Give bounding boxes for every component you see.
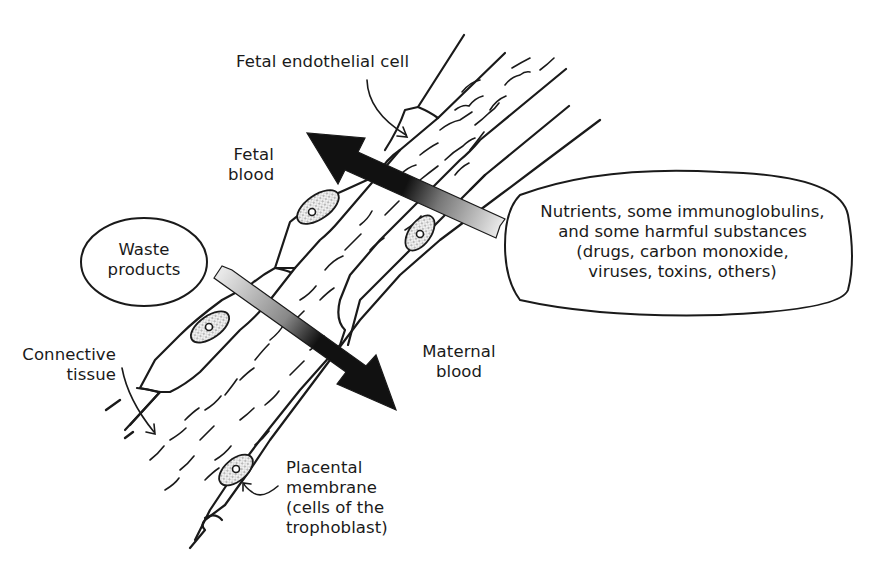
placental-line1: Placental — [286, 458, 388, 478]
nutrients-line2: and some harmful substances — [515, 222, 850, 242]
connective-tissue-label: Connective tissue — [14, 345, 116, 385]
connective-line2: tissue — [14, 365, 116, 385]
nutrients-label: Nutrients, some immunoglobulins, and som… — [515, 202, 850, 282]
fetal-blood-label: Fetal blood — [228, 145, 274, 185]
maternal-line2: blood — [418, 362, 500, 382]
nutrients-line3: (drugs, carbon monoxide, — [515, 242, 850, 262]
fetal-endothelial-cell-label: Fetal endothelial cell — [236, 52, 409, 72]
placental-line4: trophoblast) — [286, 518, 388, 538]
placental-pointer-icon — [243, 483, 278, 495]
waste-products-label: Waste products — [100, 240, 188, 280]
placental-line2: membrane — [286, 478, 388, 498]
placenta-diagram — [0, 0, 874, 577]
nutrients-line4: viruses, toxins, others) — [515, 262, 850, 282]
maternal-line1: Maternal — [418, 342, 500, 362]
placental-line3: (cells of the — [286, 498, 388, 518]
placental-membrane-label: Placental membrane (cells of the trophob… — [286, 458, 388, 538]
waste-line1: Waste — [100, 240, 188, 260]
endothelial-pointer-icon — [367, 80, 407, 137]
connective-line1: Connective — [14, 345, 116, 365]
fetal-blood-line1: Fetal — [228, 145, 274, 165]
fetal-blood-line2: blood — [228, 165, 274, 185]
maternal-blood-label: Maternal blood — [418, 342, 500, 382]
arrow-to-maternal-icon — [214, 266, 396, 410]
nutrients-line1: Nutrients, some immunoglobulins, — [515, 202, 850, 222]
connective-pointer-icon — [122, 368, 155, 434]
waste-line2: products — [100, 260, 188, 280]
